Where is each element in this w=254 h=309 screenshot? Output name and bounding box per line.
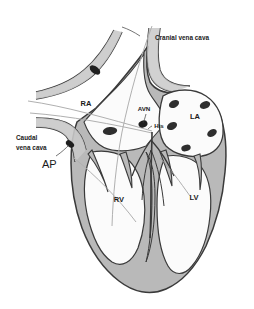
- heart-anatomy-diagram: Cranial vena cava Caudal vena cava AP RA…: [0, 0, 254, 309]
- label-caudal-vena-cava-line1: Caudal: [16, 134, 38, 141]
- label-cranial-vena-cava: Cranial vena cava: [155, 34, 209, 41]
- label-accessory-pathway: AP: [42, 158, 57, 170]
- heart-diagram-canvas: Cranial vena cava Caudal vena cava AP RA…: [0, 0, 254, 309]
- label-av-node: AVN: [138, 105, 151, 112]
- label-left-ventricle: LV: [189, 193, 198, 202]
- label-left-atrium: LA: [190, 112, 201, 121]
- label-right-atrium: RA: [81, 99, 92, 108]
- label-right-ventricle: RV: [114, 195, 124, 204]
- label-caudal-vena-cava-line2: vena cava: [16, 144, 47, 151]
- label-his-bundle: His: [154, 122, 164, 129]
